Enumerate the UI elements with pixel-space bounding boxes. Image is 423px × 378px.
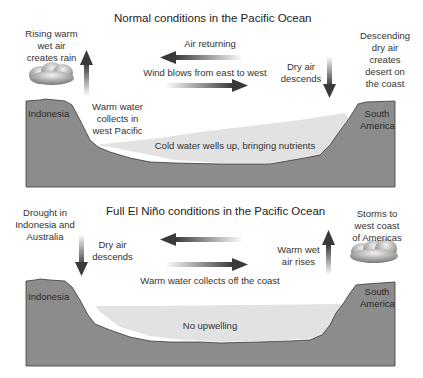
warm-air-rises-label: Warm wet air rises [276, 244, 321, 268]
rising-air-line-1: Rising warm [14, 28, 89, 40]
south-america-line-1: South [360, 108, 394, 120]
drought-line-3: Australia [12, 231, 78, 243]
elnino-indonesia-label: Indonesia [28, 291, 69, 303]
rain-cloud-icon [29, 62, 74, 85]
desert-line-2: dry air [350, 42, 420, 54]
no-upwelling-label: No upwelling [170, 320, 250, 332]
rising-air-line-3: creates rain [14, 52, 89, 64]
wind-east-to-west-arrow [165, 79, 248, 92]
warm-water-coast-label: Warm water collects off the coast [140, 275, 280, 287]
drought-label: Drought in Indonesia and Australia [12, 207, 78, 243]
cold-water-label: Cold water wells up, bringing nutrients [150, 140, 320, 152]
warm-air-line-2: air rises [276, 256, 321, 268]
elnino-south-america-label: South America [360, 286, 394, 310]
warm-air-line-1: Warm wet [276, 244, 321, 256]
storms-label: Storms to west coast of Americas [352, 208, 402, 244]
elnino-dry-air-label: Dry air descends [90, 239, 135, 263]
desert-label: Descending dry air creates desert on the… [350, 30, 420, 90]
warm-air-rises-arrow [322, 230, 335, 275]
south-america-label: South America [360, 108, 394, 132]
warm-water-line-2: collects in [85, 113, 150, 125]
normal-conditions-title: Normal conditions in the Pacific Ocean [114, 12, 312, 24]
elnino-dry-air-line-2: descends [90, 251, 135, 263]
air-returning-label: Air returning [175, 38, 245, 50]
elnino-air-returning-arrow [160, 233, 243, 246]
dry-air-line-1: Dry air [276, 61, 326, 73]
elnino-dry-air-line-1: Dry air [90, 239, 135, 251]
indonesia-label: Indonesia [28, 108, 69, 120]
rising-air-line-2: wet air [14, 40, 89, 52]
elnino-conditions-title: Full El Niño conditions in the Pacific O… [106, 205, 325, 217]
elnino-wind-arrow [165, 258, 248, 271]
storms-line-3: of Americas [352, 232, 402, 244]
dry-air-descends-label: Dry air descends [276, 61, 326, 85]
warm-water-line-1: Warm water [85, 101, 150, 113]
desert-line-4: desert on [350, 66, 420, 78]
desert-line-5: the coast [350, 78, 420, 90]
warm-water-line-3: west Pacific [85, 125, 150, 137]
storms-line-1: Storms to [352, 208, 402, 220]
desert-line-1: Descending [350, 30, 420, 42]
drought-line-1: Drought in [12, 207, 78, 219]
wind-label: Wind blows from east to west [140, 67, 270, 79]
storms-line-2: west coast [352, 220, 402, 232]
dry-air-line-2: descends [276, 73, 326, 85]
rising-air-label: Rising warm wet air creates rain [14, 28, 89, 64]
elnino-south-america-line-2: America [360, 298, 394, 310]
warm-water-label: Warm water collects in west Pacific [85, 101, 150, 137]
drought-line-2: Indonesia and [12, 219, 78, 231]
south-america-line-2: America [360, 120, 394, 132]
air-returning-arrow [160, 51, 243, 64]
desert-line-3: creates [350, 54, 420, 66]
elnino-south-america-line-1: South [360, 286, 394, 298]
